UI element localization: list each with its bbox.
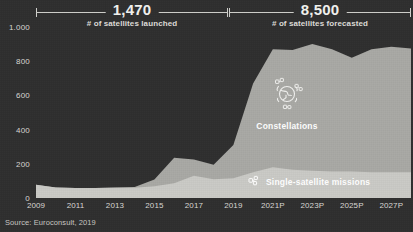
annotation-forecasted-value: 8,500 bbox=[294, 1, 347, 18]
bracket-cap-right-start bbox=[229, 8, 230, 17]
x-axis-tick: 2021P bbox=[261, 201, 285, 210]
bracket-cap-left-start bbox=[36, 8, 37, 17]
bracket-cap-left-end bbox=[227, 8, 228, 17]
x-axis-tick: 2019 bbox=[224, 201, 242, 210]
x-axis-tick: 2009 bbox=[27, 201, 45, 210]
stacked-area-chart bbox=[36, 27, 411, 198]
x-axis-tick: 2023P bbox=[300, 201, 324, 210]
chart-plot-area bbox=[36, 27, 411, 198]
annotation-launched-value: 1,470 bbox=[106, 1, 159, 18]
globe-satellites-icon bbox=[267, 74, 307, 118]
x-axis-tick: 2027P bbox=[379, 201, 403, 210]
y-axis: 02004006008001.000 bbox=[0, 27, 34, 198]
satellite-icon bbox=[247, 174, 261, 192]
y-axis-tick: 400 bbox=[16, 125, 30, 134]
source-note: Source: Euroconsult, 2019 bbox=[5, 218, 96, 227]
x-axis-tick: 2015 bbox=[145, 201, 163, 210]
y-axis-tick: 200 bbox=[16, 159, 30, 168]
x-axis-tick: 2011 bbox=[67, 201, 85, 210]
x-axis-tick: 2025P bbox=[340, 201, 364, 210]
x-axis: 2009201120132015201720192021P2023P2025P2… bbox=[36, 201, 411, 215]
series-label-single-satellite: Single-satellite missions bbox=[266, 177, 370, 187]
y-axis-tick: 1.000 bbox=[9, 23, 30, 32]
bracket-cap-right-end bbox=[410, 8, 411, 17]
y-axis-tick: 800 bbox=[16, 57, 30, 66]
x-axis-tick: 2017 bbox=[185, 201, 203, 210]
y-axis-tick: 600 bbox=[16, 91, 30, 100]
series-label-constellations: Constellations bbox=[256, 121, 317, 131]
x-axis-tick: 2013 bbox=[106, 201, 124, 210]
